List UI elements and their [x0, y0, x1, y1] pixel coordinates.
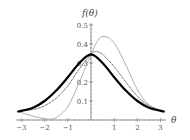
y-tick-label: 0.4	[77, 41, 89, 49]
x-tick-label: 3	[158, 124, 162, 132]
x-tick-label: −2	[39, 124, 49, 132]
chart: −3−2−1123 0.10.20.30.40.5 θ f(θ)	[0, 0, 190, 140]
y-tick-label: 0.1	[77, 98, 88, 106]
y-tick-label: 0.5	[77, 22, 88, 30]
x-tick-label: 1	[112, 124, 116, 132]
x-tick-label: 2	[135, 124, 139, 132]
x-axis-label: θ	[171, 115, 177, 125]
x-axis: −3−2−1123	[16, 118, 166, 132]
x-tick-label: −1	[63, 124, 73, 132]
y-axis-label: f(θ)	[81, 8, 98, 18]
y-tick-label: 0.2	[77, 79, 88, 87]
x-tick-label: −3	[16, 124, 26, 132]
y-axis: 0.10.20.30.40.5	[77, 22, 93, 121]
